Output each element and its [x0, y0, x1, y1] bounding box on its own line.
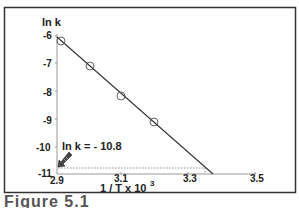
- x-tick-label: 2.9: [50, 175, 64, 186]
- figure-caption-text: Figure 5.1: [4, 193, 299, 208]
- chart-canvas: ln k -6 -7 -8 -9 -10 -11 2.9 3.1 3.3 3.5…: [0, 0, 299, 208]
- y-tick-label: -6: [43, 30, 52, 41]
- figure-caption: Figure 5.1: [4, 192, 299, 208]
- y-tick-label: -10: [36, 142, 51, 153]
- y-tick-label: -8: [43, 87, 52, 98]
- y-ticks: -6 -7 -8 -9 -10 -11: [36, 30, 57, 179]
- x-tick-label: 3.3: [183, 173, 197, 184]
- annotation-arrow-icon: [58, 152, 72, 167]
- x-axis-label-superscript: 3: [150, 179, 155, 188]
- annotation-text: ln k = - 10.8: [62, 140, 122, 152]
- y-axis-label: ln k: [42, 16, 62, 28]
- x-tick-label: 3.5: [250, 173, 264, 184]
- fit-line: [57, 37, 213, 174]
- y-tick-label: -7: [43, 58, 52, 69]
- y-tick-label: -9: [43, 115, 52, 126]
